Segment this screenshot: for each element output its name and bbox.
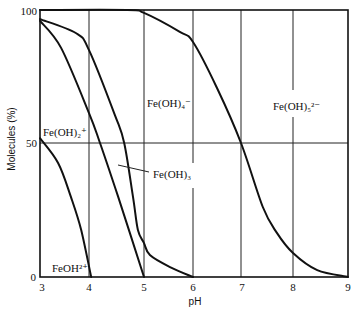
label-feoh3: Fe(OH)₃ xyxy=(153,168,191,181)
gridlines xyxy=(40,10,348,277)
label-feoh5-2minus: Fe(OH)₅²⁻ xyxy=(273,100,320,113)
y-axis-title: Molecules (%) xyxy=(6,107,17,170)
label-feoh-2plus: FeOH²⁺ xyxy=(52,262,88,274)
y-tick-100: 100 xyxy=(21,5,38,17)
label-feoh2-plus: Fe(OH)₂⁺ xyxy=(43,126,87,139)
x-tick-4: 4 xyxy=(86,281,92,293)
x-tick-3: 3 xyxy=(39,281,45,293)
x-tick-7: 7 xyxy=(239,281,245,293)
curve-feoh3-boundary xyxy=(40,19,193,277)
label-feoh4-minus: Fe(OH)₄⁻ xyxy=(147,97,191,110)
y-tick-0: 0 xyxy=(31,271,37,283)
x-tick-9: 9 xyxy=(345,281,351,293)
x-tick-8: 8 xyxy=(290,281,296,293)
x-tick-5: 5 xyxy=(141,281,147,293)
curve-feoh-boundary xyxy=(40,138,91,277)
curve-feoh2-boundary xyxy=(40,21,144,277)
x-axis-title: pH xyxy=(189,296,202,307)
speciation-chart: Fe(OH)₂⁺ FeOH²⁺ Fe(OH)₃ Fe(OH)₄⁻ Fe(OH)₅… xyxy=(0,0,362,310)
x-tick-6: 6 xyxy=(190,281,196,293)
y-tick-50: 50 xyxy=(26,137,38,149)
